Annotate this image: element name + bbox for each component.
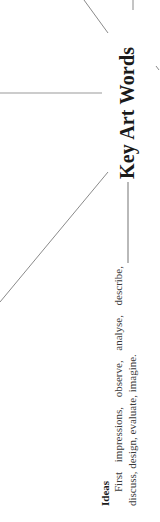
node-title: Ideas: [99, 256, 111, 506]
branch-line-lower-diagonal: [0, 172, 108, 302]
branch-line-upper-diagonal: [84, 0, 108, 33]
mind-map-diagram: Key Art Words Ideas First impressions, o…: [0, 0, 160, 522]
hub-label: Key Art Words: [117, 47, 137, 179]
node-ideas: Ideas First impressions, observe, analys…: [99, 256, 139, 506]
node-description: First impressions, observe, analyse, des…: [111, 266, 139, 506]
branch-line-right-diagonal: [156, 66, 159, 70]
